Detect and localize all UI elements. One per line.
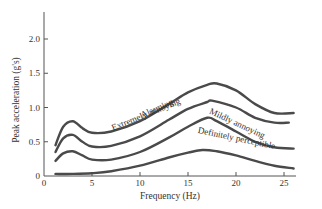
curve-label-definitely-perceptible: Definitely perceptible <box>197 125 276 151</box>
chart: 051015202500.51.01.52.0Frequency (Hz)Pea… <box>0 0 322 209</box>
y-tick-label: 0.5 <box>29 137 41 147</box>
y-axis-title: Peak acceleration (g's) <box>11 57 22 143</box>
x-tick-label: 20 <box>232 178 242 188</box>
x-tick-label: 5 <box>90 178 95 188</box>
y-tick-label: 0 <box>36 171 41 181</box>
y-tick-label: 1.0 <box>29 103 41 113</box>
x-tick-label: 15 <box>184 178 194 188</box>
y-tick-label: 2.0 <box>29 34 41 44</box>
x-axis-title: Frequency (Hz) <box>140 191 200 202</box>
x-tick-label: 25 <box>280 178 290 188</box>
curve-label-extremely-annoying: Extremely annoying <box>110 96 182 133</box>
x-tick-label: 0 <box>42 178 47 188</box>
x-tick-label: 10 <box>136 178 146 188</box>
y-tick-label: 1.5 <box>29 68 41 78</box>
curve-definitely-perceptible <box>56 150 294 174</box>
